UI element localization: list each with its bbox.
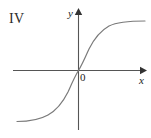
figure-panel: IV y x 0: [0, 0, 151, 138]
y-axis-label: y: [68, 8, 73, 19]
origin-label: 0: [80, 72, 86, 83]
x-axis-label: x: [139, 75, 144, 86]
y-axis-arrowhead: [75, 8, 82, 15]
plot-area: [0, 0, 151, 138]
